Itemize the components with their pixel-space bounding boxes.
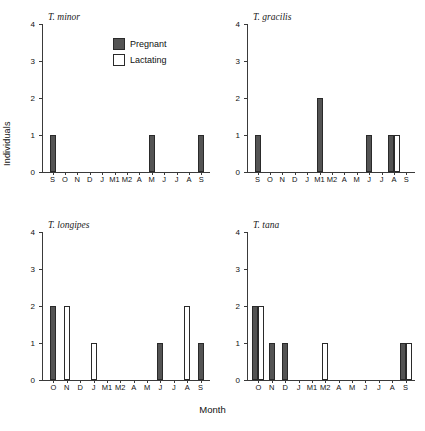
chart-panel-t-longipes: T. longipes01234ONDJM1M2AMJJAS <box>20 222 206 400</box>
y-axis-tick-label: 4 <box>236 229 240 237</box>
y-axis-tick: 0 <box>39 380 42 381</box>
x-axis-tick-label: M1 <box>314 176 324 184</box>
y-axis-line <box>42 232 43 380</box>
bar-pregnant <box>282 343 288 380</box>
x-axis-tick-label: O <box>255 384 261 392</box>
x-axis-tick-label: J <box>377 384 381 392</box>
x-axis-tick-label: A <box>336 384 341 392</box>
panel-title: T. longipes <box>48 220 90 230</box>
y-axis-tick: 4 <box>244 24 247 25</box>
y-axis-tick: 3 <box>244 269 247 270</box>
x-axis-tick-label: M2 <box>122 176 132 184</box>
bar-lactating <box>394 135 400 172</box>
y-axis-tick-label: 1 <box>236 132 240 140</box>
x-axis-tick-label: M2 <box>327 176 337 184</box>
y-axis-tick: 3 <box>244 61 247 62</box>
bar-lactating <box>406 343 412 380</box>
y-axis-tick-label: 2 <box>31 95 35 103</box>
x-axis-tick-label: N <box>75 176 80 184</box>
bar-pregnant <box>157 343 163 380</box>
y-axis-line <box>247 24 248 172</box>
x-axis-tick-label: M <box>144 384 150 392</box>
x-axis-tick-label: A <box>131 384 136 392</box>
x-axis-tick-label: D <box>87 176 92 184</box>
x-axis-tick-label: M2 <box>115 384 125 392</box>
x-axis-tick-label: S <box>198 384 203 392</box>
x-axis-tick-label: J <box>297 384 301 392</box>
x-axis-tick-label: M1 <box>307 384 317 392</box>
figure-root: Individuals Month Pregnant Lactating T. … <box>0 0 425 431</box>
y-axis-tick-label: 4 <box>236 21 240 29</box>
x-axis-tick-label: S <box>404 176 409 184</box>
y-axis-tick: 1 <box>244 343 247 344</box>
y-axis-tick-label: 2 <box>236 303 240 311</box>
panel-title: T. tana <box>253 220 279 230</box>
y-axis-tick: 4 <box>39 232 42 233</box>
y-axis-tick-label: 4 <box>31 21 35 29</box>
y-axis-tick: 2 <box>244 306 247 307</box>
x-axis-tick-label: A <box>137 176 142 184</box>
x-axis-tick-label: M <box>349 384 355 392</box>
y-axis-tick-label: 0 <box>236 169 240 177</box>
y-axis-tick-label: 0 <box>236 377 240 385</box>
chart-panel-t-gracilis: T. gracilis01234SONDJM1M2AMJJAS <box>225 14 411 192</box>
y-axis-tick: 4 <box>39 24 42 25</box>
x-axis-tick-label: N <box>64 384 69 392</box>
y-axis-tick-label: 2 <box>236 95 240 103</box>
bar-pregnant <box>50 306 56 380</box>
y-axis-tick-label: 3 <box>236 58 240 66</box>
panel-title: T. minor <box>48 12 80 22</box>
x-axis-tick-label: O <box>267 176 273 184</box>
bar-pregnant <box>317 98 323 172</box>
y-axis-tick-label: 1 <box>31 132 35 140</box>
y-axis-tick: 1 <box>244 135 247 136</box>
x-axis-tick-label: J <box>92 384 96 392</box>
y-axis-tick-label: 3 <box>31 266 35 274</box>
x-axis-tick-label: S <box>255 176 260 184</box>
bar-lactating <box>258 306 264 380</box>
y-axis-tick-label: 4 <box>31 229 35 237</box>
y-axis-tick: 3 <box>39 61 42 62</box>
x-axis-tick-label: J <box>162 176 166 184</box>
bar-lactating <box>91 343 97 380</box>
y-axis-tick: 2 <box>39 98 42 99</box>
plot-area: 01234ONDJM1M2AMJJAS <box>247 232 415 380</box>
y-axis-line <box>247 232 248 380</box>
y-axis-tick-label: 0 <box>31 377 35 385</box>
bar-lactating <box>322 343 328 380</box>
x-axis-tick-label: D <box>292 176 297 184</box>
x-axis-tick-label: D <box>77 384 82 392</box>
x-axis-tick-label: S <box>199 176 204 184</box>
bar-pregnant <box>50 135 56 172</box>
bar-lactating <box>64 306 70 380</box>
x-axis-tick-label: N <box>269 384 274 392</box>
x-axis-tick-label: J <box>380 176 384 184</box>
y-axis-tick-label: 3 <box>236 266 240 274</box>
x-axis-tick-label: A <box>186 176 191 184</box>
y-axis-tick-label: 3 <box>31 58 35 66</box>
x-axis-tick-label: A <box>185 384 190 392</box>
x-axis-tick-label: J <box>175 176 179 184</box>
x-axis-tick-label: M1 <box>109 176 119 184</box>
bar-pregnant <box>269 343 275 380</box>
y-axis-tick: 3 <box>39 269 42 270</box>
panel-title: T. gracilis <box>253 12 291 22</box>
x-axis-tick-label: M <box>354 176 360 184</box>
x-axis-tick-label: J <box>100 176 104 184</box>
x-axis-tick-label: S <box>403 384 408 392</box>
y-axis-tick-label: 1 <box>31 340 35 348</box>
bar-pregnant <box>149 135 155 172</box>
plot-area: 01234SONDJM1M2AMJJAS <box>247 24 415 172</box>
x-axis-title: Month <box>0 404 425 415</box>
plot-area: 01234ONDJM1M2AMJJAS <box>42 232 210 380</box>
y-axis-tick: 0 <box>244 380 247 381</box>
y-axis-title-text: Individuals <box>2 150 12 166</box>
x-axis-tick-label: D <box>282 384 287 392</box>
bar-lactating <box>184 306 190 380</box>
x-axis-tick-label: M1 <box>102 384 112 392</box>
x-axis-tick-label: M <box>149 176 155 184</box>
x-axis-tick-label: J <box>305 176 309 184</box>
y-axis-tick-label: 1 <box>236 340 240 348</box>
chart-panel-t-tana: T. tana01234ONDJM1M2AMJJAS <box>225 222 411 400</box>
y-axis-tick: 0 <box>39 172 42 173</box>
